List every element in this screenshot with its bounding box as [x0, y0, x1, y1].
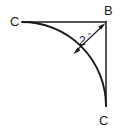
diagram-canvas: B C C 2 ″: [0, 0, 124, 132]
vertex-label-b: B: [104, 3, 113, 18]
geometry-diagram: B C C 2 ″: [0, 0, 124, 132]
radius-dimension-unit: ″: [88, 31, 91, 40]
vertex-label-c-bottom: C: [99, 113, 108, 128]
vertex-label-c-left: C: [10, 14, 19, 29]
radius-dimension-value: 2: [79, 34, 86, 48]
